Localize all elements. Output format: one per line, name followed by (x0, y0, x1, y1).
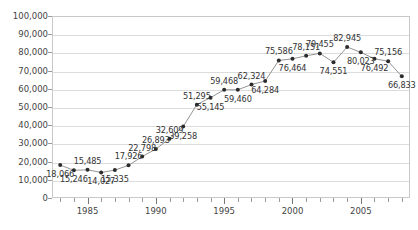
line-chart: 010,00020,00030,00040,00050,00060,00070,… (0, 0, 418, 230)
x-tick-label: 1995 (213, 206, 235, 216)
data-point-label: 59,460 (224, 94, 252, 104)
data-point-label: 82,945 (333, 33, 361, 43)
data-point-label: 76,492 (361, 63, 389, 73)
x-tick-label: 2000 (282, 206, 304, 216)
data-point (318, 51, 322, 55)
data-point-label: 64,284 (251, 85, 279, 95)
data-point (304, 54, 308, 58)
data-point-label: 39,258 (169, 131, 197, 141)
data-point-label: 15,335 (101, 174, 129, 184)
data-point-label: 17,926 (115, 151, 143, 161)
data-point-label: 15,246 (60, 174, 88, 184)
x-tick-label: 1985 (77, 206, 99, 216)
data-point-label: 75,156 (374, 47, 402, 57)
data-point-label: 76,464 (279, 63, 307, 73)
x-tick-label: 2005 (350, 206, 372, 216)
data-point (113, 168, 117, 172)
data-point-label: 55,145 (197, 102, 225, 112)
data-point (331, 60, 335, 64)
data-point (290, 57, 294, 61)
data-point-label: 79,455 (306, 39, 334, 49)
data-point (400, 74, 404, 78)
data-point-label: 75,586 (265, 46, 293, 56)
data-point-label: 59,468 (210, 76, 238, 86)
data-point-label: 51,295 (183, 91, 211, 101)
x-tick-label: 1990 (145, 206, 167, 216)
data-point-label: 15,485 (74, 156, 102, 166)
data-point (236, 88, 240, 92)
data-point-label: 74,551 (320, 66, 348, 76)
data-point (359, 50, 363, 54)
data-point (277, 58, 281, 62)
x-axis-labels: 19851990199520002005 (52, 200, 410, 226)
data-point (127, 163, 131, 167)
data-point (58, 163, 62, 167)
data-point (345, 45, 349, 49)
data-point (222, 88, 226, 92)
data-point-label: 62,324 (238, 71, 266, 81)
data-point (86, 168, 90, 172)
data-point-label: 66,833 (388, 80, 416, 90)
data-point-label: 26,893 (142, 135, 170, 145)
